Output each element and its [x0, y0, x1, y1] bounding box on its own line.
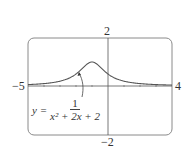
- graph-canvas: [0, 0, 188, 154]
- y-max-label: 2: [104, 25, 110, 37]
- annotation-arrow: [79, 73, 83, 97]
- formula-denominator: x² + 2x + 2: [50, 110, 100, 123]
- formula-prefix: y =: [32, 104, 47, 116]
- formula-numerator: 1: [70, 97, 80, 110]
- function-curve: [28, 62, 172, 85]
- function-label: y = 1 x² + 2x + 2: [32, 97, 100, 123]
- x-max-label: 4: [175, 80, 181, 92]
- formula-fraction: 1 x² + 2x + 2: [50, 97, 100, 123]
- x-min-label: −5: [12, 80, 25, 92]
- y-min-label: −2: [101, 136, 114, 148]
